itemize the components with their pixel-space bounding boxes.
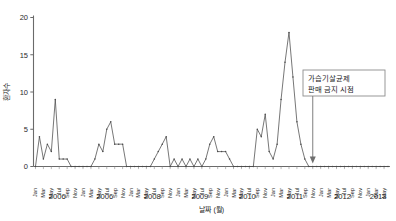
data-point	[387, 166, 389, 168]
x-month-label: Nov	[72, 188, 78, 198]
y-axis-title: 환자수	[2, 82, 11, 101]
x-year-label: 2006	[49, 192, 66, 201]
ban-annotation: 가습기살균제 판매 금지 시점	[303, 70, 385, 164]
y-tick-label: 5	[24, 125, 28, 134]
annotation-line-2: 판매 금지 시점	[308, 85, 354, 94]
data-point	[82, 166, 84, 168]
data-point	[169, 166, 171, 168]
patient-count-markers	[35, 32, 389, 168]
data-point	[213, 136, 215, 138]
data-point	[272, 158, 274, 160]
x-year-label: 2009	[191, 192, 208, 201]
data-point	[189, 158, 191, 160]
data-point	[106, 129, 108, 131]
y-tick-label: 20	[20, 13, 28, 22]
x-year-label: 2013	[370, 192, 387, 201]
data-point	[217, 151, 219, 153]
data-point	[110, 121, 112, 123]
data-point	[94, 158, 96, 160]
data-point	[237, 166, 239, 168]
data-point	[150, 166, 152, 168]
y-tick-label: 0	[24, 162, 28, 171]
data-point	[98, 143, 100, 145]
x-year-label: 2012	[334, 192, 351, 201]
data-point	[383, 166, 385, 168]
data-point	[288, 32, 290, 34]
data-point	[62, 158, 64, 160]
data-point	[221, 151, 223, 153]
data-point	[138, 166, 140, 168]
data-point	[154, 158, 156, 160]
data-point	[233, 166, 235, 168]
data-point	[257, 129, 259, 131]
data-point	[102, 151, 104, 153]
x-month-label: Jan	[32, 188, 38, 197]
data-point	[70, 166, 72, 168]
data-point	[264, 114, 266, 116]
data-point	[320, 166, 322, 168]
data-point	[201, 166, 203, 168]
x-month-label: Jan	[128, 188, 134, 197]
data-point	[336, 166, 338, 168]
x-month-label: Mar	[231, 188, 237, 198]
data-point	[90, 166, 92, 168]
data-point	[276, 143, 278, 145]
data-point	[39, 136, 41, 138]
x-month-label: Nov	[120, 188, 126, 198]
patient-count-series	[35, 32, 388, 166]
data-point	[78, 166, 80, 168]
data-point	[229, 158, 231, 160]
x-month-label: Jan	[270, 188, 276, 197]
annotation-line-1: 가습기살균제	[308, 74, 350, 83]
x-month-label: Nov	[310, 188, 316, 198]
data-point	[280, 99, 282, 101]
data-point	[181, 158, 183, 160]
data-point	[130, 166, 132, 168]
data-point	[284, 61, 286, 63]
data-point	[86, 166, 88, 168]
data-point	[356, 166, 358, 168]
data-point	[296, 121, 298, 123]
data-point	[47, 143, 49, 145]
data-point	[118, 143, 120, 145]
data-point	[245, 166, 247, 168]
data-point	[308, 166, 310, 168]
chart-figure: 05101520 JanMarMayJulSepNovJanMarMayJulS…	[0, 0, 396, 221]
data-point	[261, 136, 263, 138]
x-year-label: 2011	[287, 192, 303, 201]
x-month-label: Mar	[183, 188, 189, 198]
data-point	[161, 143, 163, 145]
x-month-label: Mar	[135, 188, 141, 198]
x-month-label: Nov	[357, 188, 363, 198]
data-point	[59, 158, 61, 160]
data-point	[371, 166, 373, 168]
data-point	[146, 166, 148, 168]
data-point	[114, 143, 116, 145]
y-axis-tick-labels: 05101520	[20, 13, 28, 171]
x-month-label: Jan	[223, 188, 229, 197]
x-month-label: Nov	[215, 188, 221, 198]
data-point	[300, 143, 302, 145]
x-year-label: 2008	[144, 192, 161, 201]
line-chart: 05101520 JanMarMayJulSepNovJanMarMayJulS…	[0, 0, 396, 221]
data-point	[344, 166, 346, 168]
data-point	[165, 136, 167, 138]
data-point	[205, 158, 207, 160]
x-year-label: 2006	[96, 192, 113, 201]
data-point	[352, 166, 354, 168]
x-month-label: Nov	[262, 188, 268, 198]
data-point	[249, 166, 251, 168]
y-tick-label: 15	[20, 51, 28, 60]
data-point	[225, 151, 227, 153]
data-point	[324, 166, 326, 168]
data-point	[328, 166, 330, 168]
x-month-label: Mar	[278, 188, 284, 198]
data-point	[367, 166, 369, 168]
data-point	[35, 166, 37, 168]
x-month-label: Mar	[88, 188, 94, 198]
data-point	[340, 166, 342, 168]
data-point	[360, 166, 362, 168]
y-tick-label: 10	[20, 88, 28, 97]
x-year-label: 2010	[239, 192, 256, 201]
data-point	[364, 166, 366, 168]
